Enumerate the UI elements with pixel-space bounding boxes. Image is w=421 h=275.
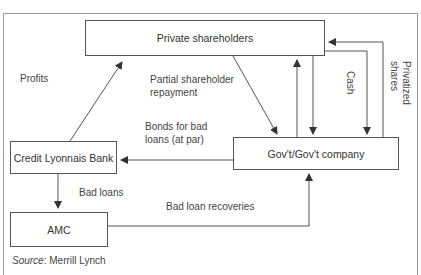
label-privatized-2: shares bbox=[388, 61, 400, 91]
label-profits: Profits bbox=[20, 72, 48, 85]
label-bad-loan-recoveries: Bad loan recoveries bbox=[166, 200, 254, 213]
node-label: AMC bbox=[47, 224, 70, 236]
node-government: Gov't/Gov't company bbox=[233, 137, 399, 170]
label-bonds-1: Bonds for bad bbox=[145, 120, 207, 133]
node-label: Credit Lyonnais Bank bbox=[14, 152, 113, 164]
label-privatized-1: Privatized bbox=[400, 61, 412, 105]
label-partial-repayment-2: repayment bbox=[150, 86, 197, 99]
source-text: : Merrill Lynch bbox=[44, 255, 106, 266]
source-note: Source: Merrill Lynch bbox=[12, 255, 106, 266]
node-private-shareholders: Private shareholders bbox=[85, 20, 325, 56]
label-bonds-2: loans (at par) bbox=[145, 133, 204, 146]
arrow-partial-repayment bbox=[233, 56, 277, 134]
source-prefix: Source bbox=[12, 255, 44, 266]
arrow-privatized-shares bbox=[329, 42, 383, 137]
arrow-profits bbox=[70, 62, 122, 141]
node-credit-lyonnais-bank: Credit Lyonnais Bank bbox=[10, 141, 117, 174]
node-label: Gov't/Gov't company bbox=[268, 148, 365, 160]
node-label: Private shareholders bbox=[157, 32, 253, 44]
node-amc: AMC bbox=[10, 212, 108, 247]
label-cash: Cash bbox=[344, 71, 356, 94]
label-bad-loans: Bad loans bbox=[79, 186, 123, 199]
label-partial-repayment-1: Partial shareholder bbox=[150, 73, 234, 86]
